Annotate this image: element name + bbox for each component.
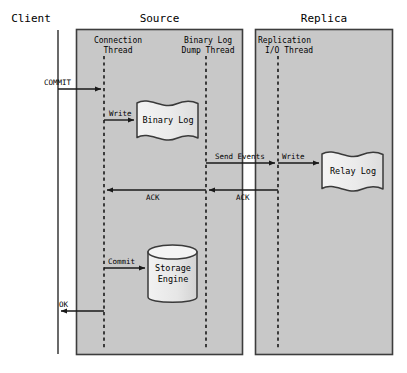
- edge-label-ack-source: ACK: [146, 193, 160, 202]
- edge-label-commit-engine: Commit: [108, 257, 135, 266]
- thread-label-replication-io-line1: Replication: [258, 36, 320, 46]
- node-label-storage-engine-line2: Engine: [145, 274, 201, 285]
- diagram-canvas: Client Source Replica: [0, 0, 407, 373]
- node-label-relay-log: Relay Log: [325, 166, 381, 177]
- node-label-binary-log: Binary Log: [140, 115, 196, 126]
- edge-label-write-relay: Write: [282, 152, 305, 161]
- edge-label-commit: COMMIT: [44, 78, 71, 87]
- node-label-storage-engine-line1: Storage: [145, 263, 201, 274]
- edge-label-write-binlog: Write: [109, 109, 132, 118]
- edge-label-ok: OK: [59, 300, 68, 309]
- thread-label-binlog-dump-line2: Dump Thread: [180, 46, 236, 56]
- thread-label-binlog-dump-line1: Binary Log: [180, 36, 236, 46]
- lane-box-replica: [256, 30, 393, 355]
- edge-label-ack-replica: ACK: [236, 193, 250, 202]
- node-label-storage-engine: Storage Engine: [145, 263, 201, 285]
- thread-label-replication-io: Replication I/O Thread: [258, 36, 320, 56]
- lane-box-source: [77, 30, 243, 355]
- thread-label-connection: Connection Thread: [82, 36, 154, 56]
- thread-label-connection-line1: Connection: [82, 36, 154, 46]
- edge-label-send-events: Send Events: [215, 152, 265, 161]
- thread-label-binlog-dump: Binary Log Dump Thread: [180, 36, 236, 56]
- thread-label-connection-line2: Thread: [82, 46, 154, 56]
- thread-label-replication-io-line2: I/O Thread: [258, 46, 320, 56]
